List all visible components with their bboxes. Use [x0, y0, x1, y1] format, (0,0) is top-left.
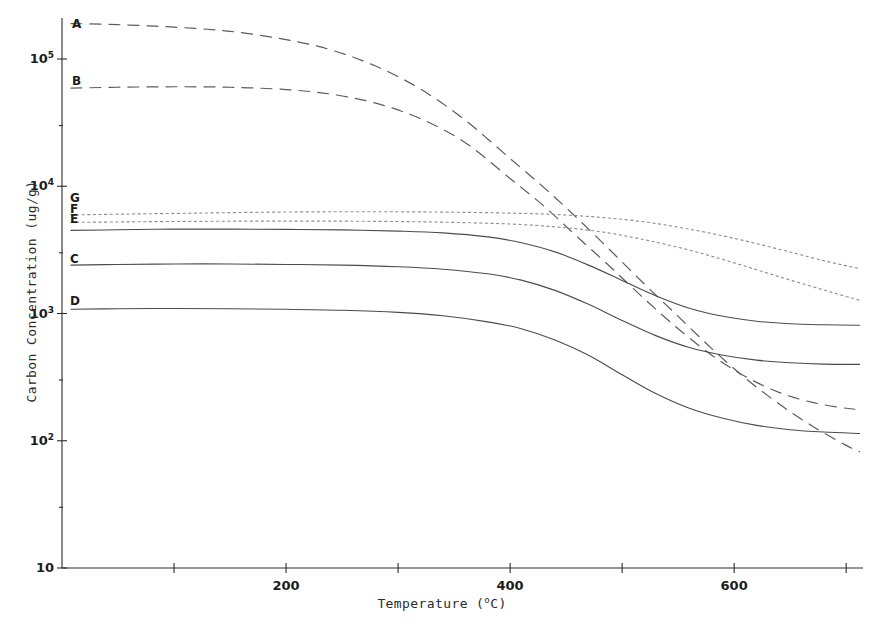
y-tick-exponent: 3	[48, 304, 54, 314]
y-tick-mantissa: 10	[36, 560, 54, 575]
series-curve-B	[71, 87, 860, 410]
chart-figure: 10102103104105 200400600 ABGFECD Tempera…	[0, 0, 884, 630]
y-tick-mantissa: 10	[30, 51, 48, 66]
series-label-B: B	[72, 75, 81, 87]
x-axis-title: Temperature (oC)	[0, 596, 884, 611]
series-curve-D	[71, 308, 860, 433]
y-tick-label: 10	[20, 561, 54, 574]
series-curve-F	[71, 221, 860, 300]
series-label-A: A	[72, 18, 81, 30]
series-curve-E	[71, 229, 860, 325]
x-axis-title-tail: C)	[490, 596, 506, 611]
y-tick-label: 105	[20, 52, 54, 65]
series-curve-C	[71, 264, 860, 364]
series-label-E: E	[70, 213, 78, 225]
y-tick-exponent: 5	[48, 50, 54, 60]
series-curve-A	[71, 24, 860, 452]
y-tick-exponent: 2	[48, 431, 54, 441]
y-tick-exponent: 4	[48, 177, 54, 187]
series-label-C: C	[70, 253, 79, 265]
series-curve-G	[71, 212, 860, 269]
x-tick-label: 600	[704, 579, 764, 592]
x-tick-label: 200	[256, 579, 316, 592]
x-tick-label: 400	[480, 579, 540, 592]
series-label-D: D	[70, 295, 80, 307]
chart-series-group	[71, 24, 860, 452]
x-axis-title-main: Temperature (	[377, 596, 484, 611]
y-axis-title: Carbon Concentration (ug/g)	[24, 102, 39, 482]
chart-plot-area	[0, 0, 884, 630]
